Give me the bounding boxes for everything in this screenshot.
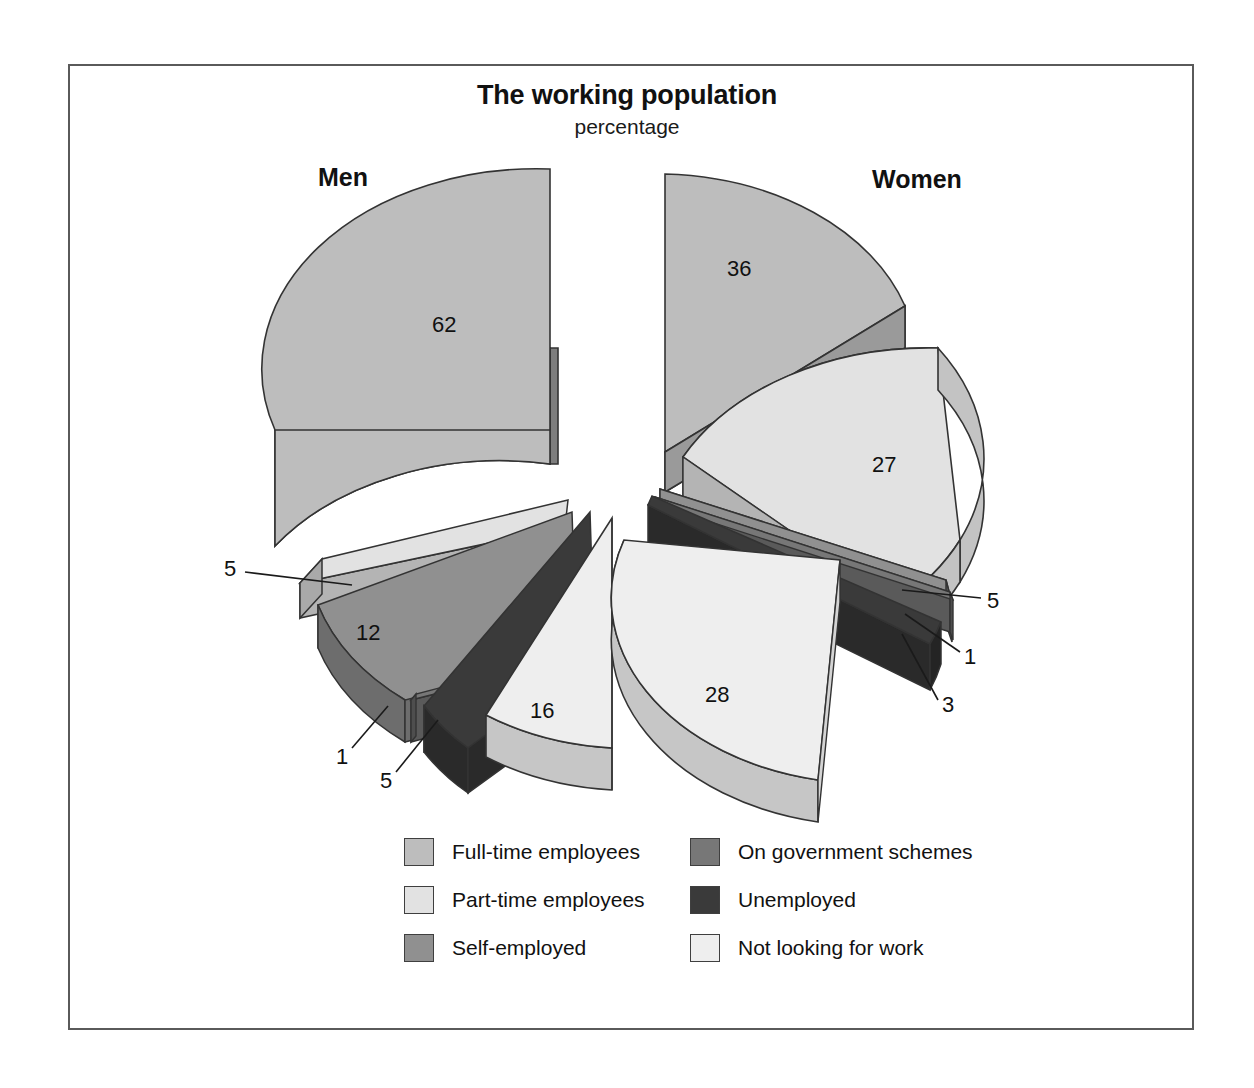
legend-label-self-employed: Self-employed — [452, 936, 586, 960]
legend-item-government-schemes[interactable]: On government schemes — [690, 828, 973, 876]
men-value-part-time: 5 — [224, 556, 236, 582]
women-value-self-employed: 5 — [987, 588, 999, 614]
legend-swatch-self-employed — [404, 934, 434, 962]
legend-label-unemployed: Unemployed — [738, 888, 856, 912]
men-slice-full-time[interactable] — [262, 169, 558, 546]
women-value-part-time: 27 — [872, 452, 896, 478]
women-value-not-looking: 28 — [705, 682, 729, 708]
legend-item-full-time[interactable]: Full-time employees — [404, 828, 645, 876]
legend-label-not-looking: Not looking for work — [738, 936, 924, 960]
legend-swatch-unemployed — [690, 886, 720, 914]
legend-label-full-time: Full-time employees — [452, 840, 640, 864]
legend-swatch-government-schemes — [690, 838, 720, 866]
legend-swatch-part-time — [404, 886, 434, 914]
legend-item-self-employed[interactable]: Self-employed — [404, 924, 645, 972]
pie-women — [611, 174, 984, 822]
women-value-government-schemes: 1 — [964, 644, 976, 670]
legend-item-part-time[interactable]: Part-time employees — [404, 876, 645, 924]
women-value-full-time: 36 — [727, 256, 751, 282]
legend-label-government-schemes: On government schemes — [738, 840, 973, 864]
women-value-unemployed: 3 — [942, 692, 954, 718]
legend-item-unemployed[interactable]: Unemployed — [690, 876, 973, 924]
legend-column-right: On government schemes Unemployed Not loo… — [690, 828, 973, 972]
legend-swatch-not-looking — [690, 934, 720, 962]
pie-men — [262, 169, 612, 793]
men-value-self-employed: 12 — [356, 620, 380, 646]
legend-item-not-looking[interactable]: Not looking for work — [690, 924, 973, 972]
figure-root: The working population percentage Men Wo… — [0, 0, 1254, 1088]
legend-column-left: Full-time employees Part-time employees … — [404, 828, 645, 972]
men-value-not-looking: 16 — [530, 698, 554, 724]
legend-swatch-full-time — [404, 838, 434, 866]
men-value-unemployed: 5 — [380, 768, 392, 794]
men-value-government-schemes: 1 — [336, 744, 348, 770]
women-slice-not-looking[interactable] — [611, 540, 840, 822]
men-value-full-time: 62 — [432, 312, 456, 338]
legend-label-part-time: Part-time employees — [452, 888, 645, 912]
